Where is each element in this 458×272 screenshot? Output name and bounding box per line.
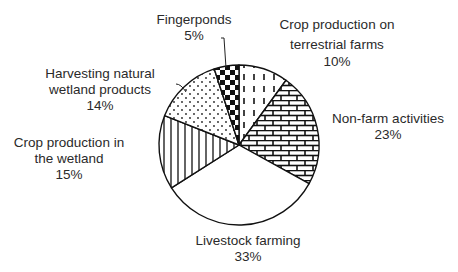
label-harvesting: Harvesting natural wetland products 14% <box>30 66 170 114</box>
label-fingerponds-pct: 5% <box>152 28 236 44</box>
label-non-farm-pct: 23% <box>320 127 456 143</box>
label-crop-terrestrial-line1: Crop production on <box>262 15 412 34</box>
label-crop-terrestrial-line2: terrestrial farms <box>262 34 412 55</box>
label-livestock: Livestock farming 33% <box>183 233 313 265</box>
label-livestock-line1: Livestock farming <box>183 233 313 249</box>
label-livestock-pct: 33% <box>183 249 313 265</box>
label-crop-terrestrial-pct: 10% <box>262 55 412 68</box>
label-harvesting-line1: Harvesting natural <box>30 66 170 82</box>
label-crop-wetland-pct: 15% <box>4 167 134 183</box>
label-crop-wetland: Crop production in the wetland 15% <box>4 135 134 183</box>
pie-slices <box>159 65 319 225</box>
label-crop-wetland-line1: Crop production in <box>4 135 134 151</box>
label-non-farm: Non-farm activities 23% <box>320 111 456 143</box>
label-crop-terrestrial: Crop production on terrestrial farms 10% <box>262 15 412 68</box>
label-crop-wetland-line2: the wetland <box>4 151 134 167</box>
label-harvesting-line2: wetland products <box>30 82 170 98</box>
label-fingerponds: Fingerponds 5% <box>152 12 236 44</box>
label-harvesting-pct: 14% <box>30 98 170 114</box>
label-fingerponds-name: Fingerponds <box>152 12 236 28</box>
label-non-farm-line1: Non-farm activities <box>320 111 456 127</box>
